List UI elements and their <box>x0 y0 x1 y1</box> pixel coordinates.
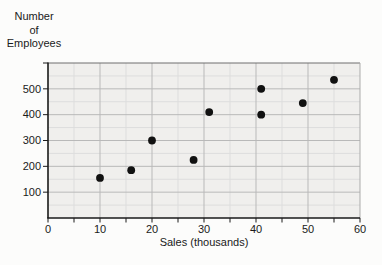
scatter-chart-figure: Number of Employees 01020304050601002003… <box>0 0 382 265</box>
y-tick-label: 400 <box>23 108 41 120</box>
data-point <box>205 108 213 116</box>
x-tick-label: 10 <box>94 223 106 235</box>
y-tick-label: 300 <box>23 134 41 146</box>
data-point <box>190 156 198 164</box>
x-tick-label: 50 <box>302 223 314 235</box>
x-axis-title: Sales (thousands) <box>48 236 360 248</box>
x-tick-label: 0 <box>45 223 51 235</box>
data-point <box>257 85 265 93</box>
data-point <box>127 166 135 174</box>
x-tick-label: 30 <box>198 223 210 235</box>
data-point <box>299 99 307 107</box>
x-tick-label: 40 <box>250 223 262 235</box>
y-tick-label: 200 <box>23 160 41 172</box>
data-point <box>96 174 104 182</box>
data-point <box>330 76 338 84</box>
data-point <box>257 111 265 119</box>
plot-area: 0102030405060100200300400500 <box>0 0 382 265</box>
y-tick-label: 100 <box>23 186 41 198</box>
data-point <box>148 137 156 145</box>
y-tick-label: 500 <box>23 83 41 95</box>
x-tick-label: 60 <box>354 223 366 235</box>
x-tick-label: 20 <box>146 223 158 235</box>
